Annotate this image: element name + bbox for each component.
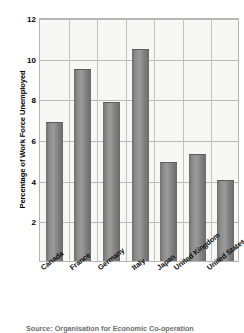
y-tick-label: 6 xyxy=(2,137,36,146)
gridline-vertical xyxy=(97,19,98,261)
plot-area: 12 10 8 6 4 2 xyxy=(39,18,239,262)
gridline-vertical xyxy=(183,19,184,261)
gridline-vertical xyxy=(211,19,212,261)
y-tick-label: 2 xyxy=(2,218,36,227)
y-tick-label: 12 xyxy=(2,15,36,24)
y-tick-label: 8 xyxy=(2,96,36,105)
gridline-vertical xyxy=(69,19,70,261)
gridline-horizontal: 12 xyxy=(40,19,238,20)
bar-canada xyxy=(46,122,63,261)
y-tick-label: 10 xyxy=(2,55,36,64)
y-tick-label: 4 xyxy=(2,177,36,186)
chart-figure: Percentage of Work Force Unemployed 12 1… xyxy=(0,0,244,333)
gridline-vertical xyxy=(126,19,127,261)
bar-france xyxy=(74,69,91,261)
bar-italy xyxy=(132,49,149,261)
gridline-vertical xyxy=(154,19,155,261)
bar-japan xyxy=(160,162,177,261)
top-clipped-text xyxy=(72,0,192,3)
source-note: Source: Organisation for Economic Co-ope… xyxy=(26,324,244,333)
bar-germany xyxy=(103,102,120,261)
